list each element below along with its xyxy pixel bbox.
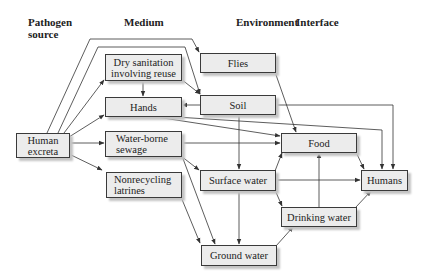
node-human-excreta: Human excreta bbox=[16, 133, 70, 158]
edge-ground-drinking bbox=[276, 227, 293, 246]
edge-excreta-latrines bbox=[69, 154, 102, 170]
node-label: Water-borne sewage bbox=[116, 133, 168, 155]
node-label: Soil bbox=[230, 100, 247, 111]
edge-excreta-hands bbox=[69, 115, 104, 137]
node-dry-sanitation: Dry sanitation involving reuse bbox=[105, 54, 182, 81]
edge-food-humans bbox=[356, 152, 364, 169]
edge-flies-food bbox=[275, 72, 296, 132]
node-label: Human excreta bbox=[28, 135, 59, 157]
header-pathogen-source: Pathogen source bbox=[28, 16, 72, 40]
node-label: Food bbox=[308, 138, 330, 149]
node-label: Humans bbox=[367, 175, 402, 186]
node-label: Hands bbox=[130, 102, 157, 113]
edge-surface-food bbox=[275, 153, 282, 171]
node-soil: Soil bbox=[200, 95, 276, 115]
node-nonrecycling-latrines: Nonrecycling latrines bbox=[106, 172, 182, 198]
header-medium: Medium bbox=[124, 16, 164, 28]
node-surface-water: Surface water bbox=[200, 170, 276, 191]
node-label: Ground water bbox=[210, 250, 268, 261]
node-label: Surface water bbox=[209, 175, 267, 186]
node-drinking-water: Drinking water bbox=[281, 207, 357, 227]
node-ground-water: Ground water bbox=[201, 245, 277, 266]
edge-latrines-ground bbox=[181, 197, 200, 243]
node-label: Nonrecycling latrines bbox=[114, 174, 171, 196]
header-interface: Interface bbox=[296, 16, 339, 28]
header-environment: Environment bbox=[236, 16, 298, 28]
node-humans: Humans bbox=[361, 170, 408, 191]
node-label: Dry sanitation involving reuse bbox=[111, 57, 176, 79]
edge-drysan-soil bbox=[181, 79, 200, 94]
edge-sewage-surface bbox=[181, 156, 199, 170]
node-flies: Flies bbox=[200, 53, 276, 73]
node-label: Flies bbox=[228, 58, 248, 69]
edge-drinking-humans bbox=[356, 191, 371, 207]
node-label: Drinking water bbox=[287, 212, 351, 223]
node-hands: Hands bbox=[105, 97, 182, 117]
edge-surface-drinking bbox=[275, 190, 282, 206]
node-food: Food bbox=[281, 133, 357, 153]
node-water-borne-sewage: Water-borne sewage bbox=[105, 131, 182, 157]
